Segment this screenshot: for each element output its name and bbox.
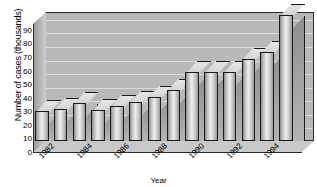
y-tick-50: 50 — [14, 81, 32, 89]
plot-area — [33, 12, 314, 153]
y-tick-80: 80 — [14, 40, 32, 48]
bar-13 — [279, 16, 305, 153]
bar-front-face — [35, 111, 49, 141]
x-axis-title: Year — [0, 176, 317, 185]
bar-front-face — [260, 52, 274, 141]
y-tick-90: 90 — [14, 27, 32, 35]
bar-top-back-edge — [254, 48, 268, 49]
bar-top-back-edge — [66, 98, 80, 99]
bar-front-face — [167, 90, 181, 141]
y-tick-70: 70 — [14, 54, 32, 62]
bar-top-back-edge — [291, 4, 305, 5]
bar-top-back-edge — [47, 100, 61, 101]
y-axis-tick-labels: 0102030405060708090 — [12, 0, 32, 187]
bar-front-face — [73, 103, 87, 141]
bar-top-back-edge — [103, 99, 117, 100]
bar-front-face — [223, 72, 237, 141]
y-tick-60: 60 — [14, 68, 32, 76]
y-tick-20: 20 — [14, 122, 32, 130]
y-tick-30: 30 — [14, 108, 32, 116]
bar-series — [33, 12, 314, 153]
y-tick-10: 10 — [14, 135, 32, 143]
bar-front-face — [279, 15, 293, 141]
bar-front-face — [204, 72, 218, 141]
bar-front-face — [129, 102, 143, 141]
bar-top-back-edge — [122, 95, 136, 96]
bar-top-back-edge — [141, 91, 155, 92]
y-tick-0: 0 — [14, 149, 32, 157]
bar-top-back-edge — [160, 86, 174, 87]
bar-top-back-edge — [197, 61, 211, 62]
bar-side-edge — [304, 16, 305, 141]
bar-front-face — [91, 110, 105, 141]
bar-front-face — [148, 97, 162, 141]
bar-front-face — [54, 109, 68, 141]
bar-front-face — [242, 59, 256, 141]
bar-top-back-edge — [216, 61, 230, 62]
bar-chart: Number of cases (thousands) 010203040506… — [0, 0, 317, 187]
bar-front-face — [110, 106, 124, 141]
bar-front-face — [185, 72, 199, 141]
bar-top-back-edge — [85, 92, 99, 93]
y-tick-40: 40 — [14, 95, 32, 103]
